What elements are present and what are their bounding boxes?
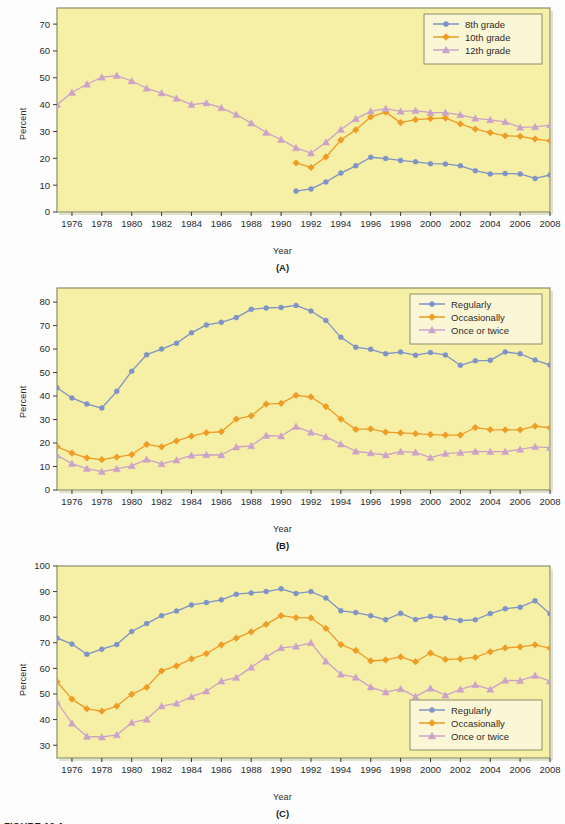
- series-marker: [533, 176, 538, 181]
- x-tick-label: 1982: [151, 764, 172, 775]
- series-marker: [294, 189, 299, 194]
- x-tick-label: 2004: [480, 218, 501, 229]
- series-marker: [338, 335, 343, 340]
- series-marker: [308, 186, 313, 191]
- x-tick-label: 1984: [181, 764, 202, 775]
- chart-legend: RegularlyOccasionallyOnce or twice: [410, 700, 542, 750]
- y-tick-label: 50: [39, 72, 50, 83]
- series-marker: [503, 171, 508, 176]
- legend-label: Occasionally: [451, 718, 505, 729]
- series-marker: [503, 606, 508, 611]
- series-marker: [458, 163, 463, 168]
- series-marker: [264, 589, 269, 594]
- legend-marker: [443, 21, 448, 26]
- y-axis-label-b: Percent: [18, 386, 28, 418]
- legend-marker: [429, 301, 434, 306]
- series-marker: [308, 309, 313, 314]
- x-tick-label: 2006: [510, 764, 531, 775]
- series-marker: [323, 318, 328, 323]
- y-tick-label: 50: [39, 688, 50, 699]
- series-marker: [398, 158, 403, 163]
- series-marker: [189, 330, 194, 335]
- series-marker: [84, 402, 89, 407]
- series-marker: [533, 598, 538, 603]
- x-tick-label: 1986: [211, 764, 232, 775]
- series-marker: [294, 303, 299, 308]
- y-tick-label: 40: [39, 714, 50, 725]
- series-marker: [428, 161, 433, 166]
- y-tick-label: 60: [39, 663, 50, 674]
- x-tick-label: 1986: [211, 218, 232, 229]
- x-tick-label: 1980: [121, 218, 142, 229]
- y-tick-label: 30: [39, 414, 50, 425]
- series-marker: [144, 352, 149, 357]
- y-tick-label: 20: [39, 153, 50, 164]
- series-marker: [368, 155, 373, 160]
- series-marker: [518, 605, 523, 610]
- x-tick-label: 1990: [271, 218, 292, 229]
- y-tick-label: 70: [39, 637, 50, 648]
- series-marker: [533, 358, 538, 363]
- x-tick-label: 1992: [300, 764, 321, 775]
- series-marker: [473, 168, 478, 173]
- series-marker: [383, 617, 388, 622]
- x-axis-label-a: Year: [0, 246, 565, 256]
- series-marker: [503, 349, 508, 354]
- y-axis-label-a: Percent: [18, 108, 28, 140]
- series-marker: [159, 613, 164, 618]
- series-marker: [144, 621, 149, 626]
- x-tick-label: 1996: [360, 218, 381, 229]
- y-tick-label: 50: [39, 367, 50, 378]
- x-tick-label: 2002: [450, 764, 471, 775]
- series-marker: [413, 617, 418, 622]
- series-marker: [458, 363, 463, 368]
- legend-label: 12th grade: [465, 45, 510, 56]
- series-marker: [353, 610, 358, 615]
- x-tick-label: 1998: [390, 218, 411, 229]
- chart-legend: RegularlyOccasionallyOnce or twice: [410, 294, 542, 344]
- series-marker: [279, 305, 284, 310]
- chart-panel-b: Percent 01020304050607080197619781980198…: [0, 278, 565, 556]
- x-tick-label: 1996: [360, 496, 381, 507]
- series-marker: [55, 385, 60, 390]
- chart-panel-c: Percent 30405060708090100197619781980198…: [0, 556, 565, 824]
- x-tick-label: 2000: [420, 218, 441, 229]
- x-tick-label: 1982: [151, 496, 172, 507]
- chart-legend: 8th grade10th grade12th grade: [424, 14, 542, 64]
- series-marker: [443, 161, 448, 166]
- x-tick-label: 1980: [121, 496, 142, 507]
- panel-tag-b: (B): [0, 540, 565, 551]
- series-marker: [473, 358, 478, 363]
- series-marker: [518, 351, 523, 356]
- x-tick-label: 1988: [241, 764, 262, 775]
- x-tick-label: 2000: [420, 496, 441, 507]
- x-axis-label-c: Year: [0, 792, 565, 802]
- x-tick-label: 1988: [241, 496, 262, 507]
- x-tick-label: 1992: [300, 218, 321, 229]
- series-marker: [219, 320, 224, 325]
- series-marker: [69, 395, 74, 400]
- series-marker: [458, 618, 463, 623]
- y-tick-label: 60: [39, 45, 50, 56]
- series-marker: [99, 647, 104, 652]
- figure-page: Percent 01020304050607019761978198019821…: [0, 0, 565, 824]
- x-tick-label: 2008: [539, 218, 560, 229]
- series-marker: [473, 617, 478, 622]
- legend-label: 8th grade: [465, 19, 505, 30]
- x-tick-label: 1988: [241, 218, 262, 229]
- series-marker: [219, 597, 224, 602]
- x-tick-label: 1998: [390, 496, 411, 507]
- x-tick-label: 1978: [91, 764, 112, 775]
- y-tick-label: 80: [39, 296, 50, 307]
- y-tick-label: 0: [45, 484, 50, 495]
- series-marker: [264, 305, 269, 310]
- line-chart-c: 3040506070809010019761978198019821984198…: [0, 556, 565, 786]
- legend-label: Regularly: [451, 299, 491, 310]
- x-tick-label: 1998: [390, 764, 411, 775]
- series-marker: [353, 345, 358, 350]
- legend-label: Occasionally: [451, 312, 505, 323]
- series-marker: [55, 635, 60, 640]
- series-marker: [114, 642, 119, 647]
- y-tick-label: 0: [45, 206, 50, 217]
- x-tick-label: 1982: [151, 218, 172, 229]
